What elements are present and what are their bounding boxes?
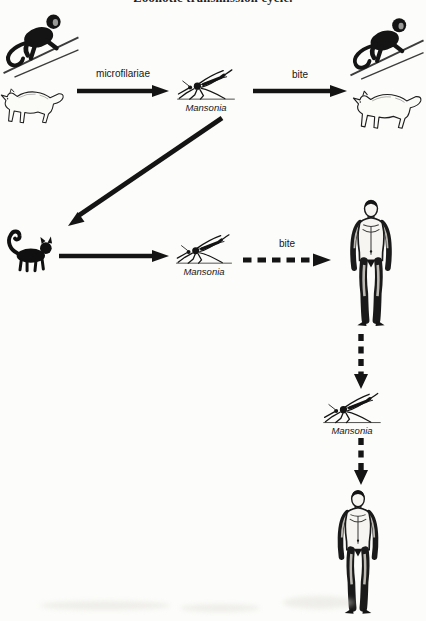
solid-arrow-icon (252, 83, 348, 99)
mansonia-label-middle: Mansonia (168, 267, 240, 277)
black-cat-icon (5, 225, 55, 273)
wild-cat-icon (0, 86, 66, 128)
human-icon (322, 488, 394, 620)
wild-cat-icon (352, 88, 424, 134)
scan-artifact (180, 604, 260, 612)
solid-arrow-icon (58, 112, 230, 234)
dashed-arrow-icon (352, 333, 370, 391)
dashed-arrow-icon (241, 252, 333, 268)
mansonia-label-bottom: Mansonia (316, 426, 388, 436)
mosquito-icon (320, 390, 384, 426)
dashed-arrow-icon (352, 437, 370, 487)
transmission-cycle-figure: Zoonotic transmission cycle. microfilari… (0, 0, 426, 621)
solid-arrow-icon (76, 83, 170, 99)
mosquito-icon (175, 66, 237, 103)
monkey-icon (2, 6, 80, 78)
human-icon (336, 196, 406, 334)
bite-label-sylvatic: bite (252, 69, 348, 80)
bite-label-human: bite (241, 238, 333, 249)
monkey-icon (348, 10, 426, 80)
scan-artifact (40, 601, 170, 610)
solid-arrow-icon (58, 248, 172, 264)
microfilariae-label: microfilariae (70, 68, 176, 79)
mosquito-icon (174, 231, 234, 267)
